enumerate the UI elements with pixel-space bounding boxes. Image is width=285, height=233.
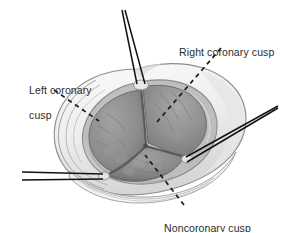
central-coaptation-point (143, 144, 148, 149)
label-noncoronary-text: Noncoronary cusp (164, 222, 251, 233)
suture-left-b (22, 179, 103, 180)
label-left-coronary-line2: cusp (29, 109, 52, 121)
noncoronary-fiber-a (132, 157, 145, 168)
label-noncoronary-cusp: Noncoronary cusp (152, 209, 251, 232)
label-left-coronary-cusp: Left coronary cusp (17, 71, 92, 134)
label-right-coronary-text: Right coronary cusp (179, 46, 274, 58)
label-left-coronary-line1: Left coronary (29, 84, 92, 96)
aortic-valve-figure: Right coronary cusp Left coronary cusp N… (0, 0, 285, 232)
label-right-coronary-cusp: Right coronary cusp (167, 33, 274, 71)
left-cusp-fiber-c (115, 154, 126, 164)
